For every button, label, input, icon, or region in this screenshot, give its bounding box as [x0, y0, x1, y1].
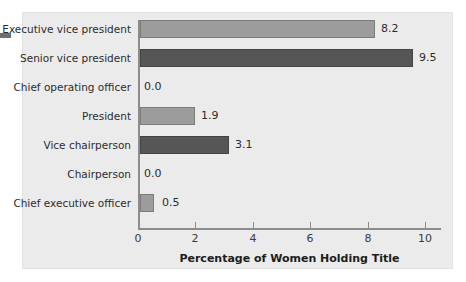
- bar[interactable]: [140, 49, 413, 67]
- category-label: Chief executive officer: [13, 194, 131, 212]
- category-label: Senior vice president: [20, 49, 131, 67]
- x-tick-label: 0: [135, 232, 142, 245]
- value-label: 8.2: [381, 20, 399, 38]
- value-label: 3.1: [235, 136, 253, 154]
- value-label: 0.0: [144, 78, 162, 96]
- value-label: 0.0: [144, 165, 162, 183]
- category-label: Vice chairperson: [43, 136, 131, 154]
- bar[interactable]: [140, 194, 154, 212]
- value-label: 9.5: [419, 49, 437, 67]
- figure: Executive vice president 8.2 Senior vice…: [0, 0, 466, 282]
- category-label: Executive vice president: [2, 20, 131, 38]
- x-axis-title: Percentage of Women Holding Title: [138, 252, 441, 265]
- x-tick-label: 2: [192, 232, 199, 245]
- x-tick-label: 4: [250, 232, 257, 245]
- plot-area: Executive vice president 8.2 Senior vice…: [138, 20, 448, 228]
- bar[interactable]: [140, 107, 195, 125]
- category-label: President: [82, 107, 131, 125]
- value-label: 0.5: [162, 194, 180, 212]
- x-tick-mark: [310, 222, 311, 229]
- x-tick-label: 8: [365, 232, 372, 245]
- category-label: Chairperson: [67, 165, 131, 183]
- x-tick-label: 6: [307, 232, 314, 245]
- chart-panel: Executive vice president 8.2 Senior vice…: [23, 13, 452, 268]
- x-tick-mark: [253, 222, 254, 229]
- x-axis-line: [138, 228, 441, 230]
- value-label: 1.9: [201, 107, 219, 125]
- bar[interactable]: [140, 20, 375, 38]
- x-tick-mark: [425, 222, 426, 229]
- x-tick-mark: [138, 222, 139, 229]
- x-tick-mark: [368, 222, 369, 229]
- category-label: Chief operating officer: [13, 78, 131, 96]
- x-tick-label: 10: [418, 232, 432, 245]
- x-tick-mark: [195, 222, 196, 229]
- bar[interactable]: [140, 136, 229, 154]
